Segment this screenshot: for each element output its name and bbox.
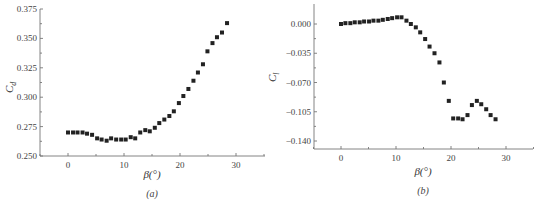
y-tick-label: 0.325	[17, 63, 38, 73]
data-point	[153, 126, 157, 130]
data-point	[181, 94, 185, 98]
data-point	[348, 21, 352, 25]
data-point	[339, 22, 343, 26]
data-point	[433, 51, 437, 55]
data-point	[201, 62, 205, 66]
y-tick-label: −0.035	[286, 48, 312, 58]
x-tick-label: 10	[120, 160, 130, 170]
data-point	[129, 135, 133, 139]
data-point	[157, 121, 161, 125]
data-point	[423, 37, 427, 41]
data-point	[358, 20, 362, 24]
data-point	[90, 133, 94, 137]
data-point	[225, 21, 229, 25]
data-point	[494, 117, 498, 121]
data-point	[343, 21, 347, 25]
data-point	[489, 113, 493, 117]
data-point	[162, 118, 166, 122]
data-point	[95, 136, 99, 140]
data-point	[85, 132, 89, 136]
data-point	[428, 45, 432, 49]
panel-a-data-points	[66, 21, 229, 143]
data-point	[376, 19, 380, 23]
data-point	[191, 79, 195, 83]
y-tick-label: 0.375	[17, 4, 38, 14]
data-point	[400, 15, 404, 19]
panel-b-y-axis-title: Cl	[266, 72, 281, 82]
y-tick-label: −0.105	[286, 107, 312, 117]
panel-a-y-axis-title: Cd	[3, 81, 18, 93]
data-point	[442, 81, 446, 85]
data-point	[386, 17, 390, 21]
panel-b-x-axis-title: β(°)	[413, 165, 432, 178]
data-point	[466, 113, 470, 117]
data-point	[71, 130, 75, 134]
data-point	[470, 103, 474, 107]
data-point	[109, 136, 113, 140]
y-tick-label: 0.250	[17, 151, 38, 161]
data-point	[66, 130, 70, 134]
data-point	[196, 71, 200, 75]
y-tick-label: 0.350	[17, 33, 38, 43]
y-tick-label: −0.070	[286, 78, 312, 88]
data-point	[133, 136, 137, 140]
x-tick-label: 30	[502, 153, 512, 163]
y-tick-label: 0.275	[17, 122, 38, 132]
panel-a-cd-chart: 0.3750.3500.3250.3000.2750.250 0102030 C…	[3, 4, 265, 200]
data-point	[167, 114, 171, 118]
data-point	[479, 102, 483, 106]
y-tick-label: 0.000	[291, 19, 312, 29]
panel-b-caption: (b)	[417, 185, 429, 197]
data-point	[451, 116, 455, 120]
panel-a-x-axis-title: β(°)	[142, 168, 161, 181]
data-point	[205, 49, 209, 53]
data-point	[456, 116, 460, 120]
data-point	[367, 19, 371, 23]
data-point	[81, 130, 85, 134]
data-point	[409, 22, 413, 26]
data-point	[418, 30, 422, 34]
data-point	[105, 139, 109, 143]
data-point	[186, 87, 190, 91]
data-point	[447, 99, 451, 103]
data-point	[395, 15, 399, 19]
data-point	[210, 41, 214, 45]
figure: 0.3750.3500.3250.3000.2750.250 0102030 C…	[0, 0, 537, 208]
panel-b-data-points	[339, 15, 498, 121]
x-tick-label: 30	[232, 160, 242, 170]
data-point	[119, 138, 123, 142]
data-point	[484, 107, 488, 111]
y-tick-label: −0.140	[286, 136, 312, 146]
data-point	[76, 130, 80, 134]
data-point	[390, 16, 394, 20]
data-point	[215, 35, 219, 39]
data-point	[177, 101, 181, 105]
data-point	[461, 117, 465, 121]
data-point	[114, 138, 118, 142]
x-tick-label: 20	[447, 153, 457, 163]
panel-b-cl-chart: 0.000−0.035−0.070−0.105−0.140 0102030 Cl…	[266, 4, 534, 197]
x-tick-label: 0	[66, 160, 71, 170]
x-tick-label: 0	[339, 153, 344, 163]
data-point	[148, 129, 152, 133]
x-tick-label: 10	[392, 153, 402, 163]
data-point	[138, 130, 142, 134]
data-point	[475, 99, 479, 103]
data-point	[100, 138, 104, 142]
data-point	[414, 25, 418, 29]
data-point	[381, 18, 385, 22]
panel-a-caption: (a)	[146, 188, 158, 200]
panel-b-y-ticks: 0.000−0.035−0.070−0.105−0.140	[286, 19, 317, 146]
panel-a-y-ticks: 0.3750.3500.3250.3000.2750.250	[17, 4, 43, 161]
data-point	[220, 31, 224, 35]
data-point	[437, 60, 441, 64]
data-point	[353, 20, 357, 24]
data-point	[371, 19, 375, 23]
data-point	[362, 19, 366, 23]
x-tick-label: 20	[176, 160, 186, 170]
data-point	[124, 138, 128, 142]
data-point	[143, 128, 147, 132]
y-tick-label: 0.300	[17, 92, 38, 102]
data-point	[404, 19, 408, 23]
data-point	[172, 109, 176, 113]
